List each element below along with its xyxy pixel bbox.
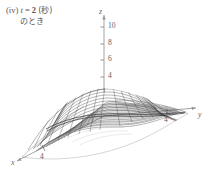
z-tick-label-10: 10 [108, 21, 116, 30]
figure-container: (iv) t = 2 (秒) のとき [0, 0, 215, 180]
surface-texture [60, 123, 132, 145]
x-axis-label: x [11, 158, 15, 167]
z-tick-label-4: 4 [108, 71, 112, 80]
axes-group [17, 15, 196, 161]
z-axis-label: z [99, 7, 102, 16]
y-tick-label-4: 4 [164, 115, 168, 124]
z-tick-label-6: 6 [108, 54, 112, 63]
x-tick-label-4: 4 [40, 152, 44, 161]
y-axis-label: y [198, 110, 202, 119]
z-tick-label-8: 8 [108, 38, 112, 47]
